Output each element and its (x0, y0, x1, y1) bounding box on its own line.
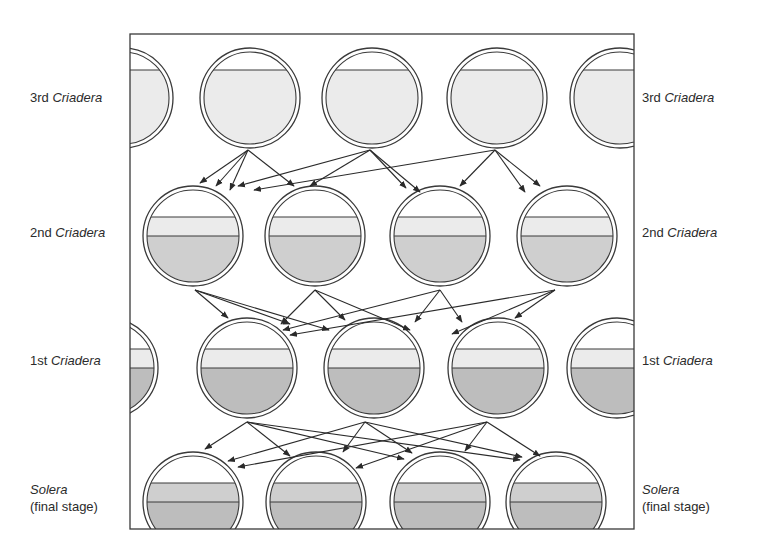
row-label-first-right: 1st Criadera (642, 352, 713, 369)
barrel-row-second (143, 186, 617, 286)
row-label-ordinal: 3rd (30, 90, 52, 105)
row-label-subtitle: (final stage) (642, 499, 710, 514)
transfer-arrow (216, 150, 248, 186)
row-label-subtitle: (final stage) (30, 499, 98, 514)
row-label-solera-right: Solera(final stage) (642, 481, 710, 515)
row-label-third-left: 3rd Criadera (30, 89, 102, 106)
row-label-ordinal: 2nd (30, 225, 55, 240)
barrel (197, 318, 297, 418)
row-label-name: Criadera (51, 353, 101, 368)
transfer-arrow (228, 422, 365, 461)
row-label-first-left: 1st Criadera (30, 352, 101, 369)
barrel (266, 452, 366, 552)
barrel (390, 452, 490, 552)
transfer-arrow (370, 150, 420, 192)
barrel-row-first (58, 318, 667, 418)
row-label-third-right: 3rd Criadera (642, 89, 714, 106)
barrel (143, 186, 243, 286)
barrel-rows (58, 48, 670, 552)
barrel (506, 452, 606, 552)
transfer-arrow (195, 290, 228, 318)
row-label-name: Solera (30, 482, 68, 497)
row-label-name: Criadera (667, 225, 717, 240)
row-label-name: Criadera (52, 90, 102, 105)
barrel (143, 452, 243, 552)
transfer-arrow (310, 150, 370, 186)
transfer-stage-3 (205, 422, 540, 468)
transfer-arrow (254, 150, 495, 190)
barrel-row-solera (143, 452, 606, 552)
barrel-row-third (73, 48, 670, 148)
transfer-arrow (195, 290, 290, 324)
transfer-arrow (281, 290, 315, 324)
row-label-second-right: 2nd Criadera (642, 224, 717, 241)
barrel (265, 186, 365, 286)
transfer-arrow (205, 422, 247, 449)
row-label-ordinal: 3rd (642, 90, 664, 105)
row-label-second-left: 2nd Criadera (30, 224, 105, 241)
barrel (448, 318, 548, 418)
row-label-name: Criadera (663, 353, 713, 368)
barrel (447, 48, 547, 148)
transfer-arrow (248, 150, 294, 186)
barrel (322, 48, 422, 148)
row-label-name: Criadera (55, 225, 105, 240)
row-label-name: Solera (642, 482, 680, 497)
barrel (324, 318, 424, 418)
row-label-ordinal: 1st (30, 353, 51, 368)
transfer-arrow (415, 290, 440, 322)
transfer-arrow (365, 422, 412, 453)
row-label-ordinal: 1st (642, 353, 663, 368)
transfer-stage-1 (200, 150, 540, 192)
row-label-solera-left: Solera(final stage) (30, 481, 98, 515)
barrel (200, 48, 300, 148)
barrel (390, 186, 490, 286)
transfer-arrow (370, 150, 406, 188)
row-label-ordinal: 2nd (642, 225, 667, 240)
row-label-name: Criadera (664, 90, 714, 105)
barrel (517, 186, 617, 286)
solera-system-diagram (0, 0, 764, 557)
transfer-arrow (238, 150, 370, 186)
transfer-arrows (195, 150, 555, 468)
